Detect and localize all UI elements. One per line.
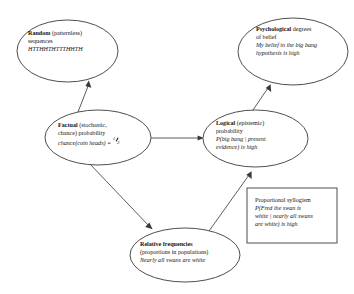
node-psychological-label: Psychological degreesof beliefMy belief … [256,25,317,57]
edge-factual-to-logical [151,135,204,140]
edge-factual-to-relative-frequencies [89,163,153,229]
edge-factual-to-random [78,81,91,113]
node-factual-label: Factual (stochastic,chance) probabilityc… [58,121,121,147]
node-logical-label: Logical (epistemic)probabilityP(big bang… [216,119,266,151]
edge-relative-frequencies-to-logical [209,171,252,231]
edge-logical-to-psychological [253,84,271,110]
node-relative-frequencies-label: Relative frequencies(proportions in popu… [140,240,208,264]
node-proportional-syllogism-label: Proportional syllogismP(Fred the swan is… [255,196,313,228]
concept-map-diagram: Random (patternless)sequencesHTTHHTHTTTH… [0,0,354,294]
node-random-label: Random (patternless)sequencesHTTHHTHTTTH… [28,29,83,53]
